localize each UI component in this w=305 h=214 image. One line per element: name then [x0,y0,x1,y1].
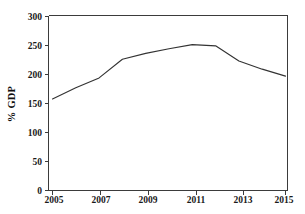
x-tick-label-2009: 2009 [139,195,158,205]
x-tick-label-2007: 2007 [92,195,111,205]
x-tick-label-2013: 2013 [234,195,253,205]
x-tick-label-2015: 2015 [275,195,294,205]
y-tick-label-50: 50 [33,157,43,167]
chart-background [0,0,305,214]
y-tick-label-200: 200 [28,70,43,80]
y-tick-label-150: 150 [28,99,43,109]
x-tick-label-2005: 2005 [45,195,64,205]
x-tick-label-2011: 2011 [187,195,206,205]
y-axis-title: % GDP [6,85,17,122]
y-tick-label-300: 300 [28,12,43,22]
y-tick-label-100: 100 [28,128,43,138]
y-tick-label-0: 0 [37,186,42,196]
y-tick-label-250: 250 [28,41,43,51]
chart-container: 0 50 100 150 200 250 300 % GDP 2005 2007… [0,0,305,214]
line-chart: 0 50 100 150 200 250 300 % GDP 2005 2007… [0,0,305,214]
